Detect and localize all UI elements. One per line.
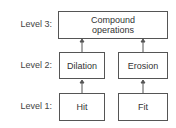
arrow-up-icon — [80, 39, 84, 42]
connector-arrows — [0, 0, 176, 128]
arrow-up-icon — [141, 39, 145, 42]
arrow-up-icon — [141, 80, 145, 83]
arrow-up-icon — [80, 80, 84, 83]
